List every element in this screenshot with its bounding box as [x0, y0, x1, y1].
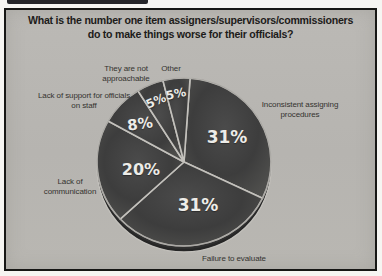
slice-percent-lack-of-communication: 20% [122, 160, 160, 179]
chart-title: What is the number one item assigners/su… [12, 14, 369, 41]
scanned-chart-page: What is the number one item assigners/su… [0, 0, 382, 276]
slice-label-lack-of-communication: Lack of communication [38, 177, 102, 196]
chart-title-line1: What is the number one item assigners/su… [12, 14, 369, 28]
chart-frame: What is the number one item assigners/su… [4, 8, 377, 271]
slice-label-inconsistent-assigning-procedures: Inconsistent assigning procedures [252, 100, 348, 119]
slice-percent-failure-to-evaluate: 31% [178, 195, 219, 215]
chart-title-line2: do to make things worse for their offici… [12, 28, 369, 42]
slice-label-other: Other [152, 64, 190, 74]
cropped-element-edge [7, 0, 148, 4]
slice-label-failure-to-evaluate: Failure to evaluate [184, 254, 284, 264]
slice-percent-lack-of-support: 8% [126, 113, 154, 134]
slice-percent-inconsistent-assigning-procedures: 31% [207, 127, 248, 147]
slice-label-lack-of-support: Lack of support for officials on staff [34, 91, 134, 110]
